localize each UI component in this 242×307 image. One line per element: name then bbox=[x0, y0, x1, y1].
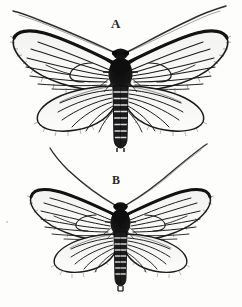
specimen-label-b: B bbox=[112, 173, 120, 188]
specimen-a-abdomen bbox=[113, 86, 128, 152]
illustration-plate: A B bbox=[0, 0, 242, 307]
paper-speck bbox=[6, 221, 8, 223]
specimen-b-abdomen bbox=[114, 232, 127, 291]
moth-plate-svg bbox=[0, 0, 242, 307]
specimen-label-a: A bbox=[111, 16, 120, 32]
